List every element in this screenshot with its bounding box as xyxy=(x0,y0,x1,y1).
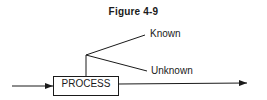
branch-known-line xyxy=(86,35,145,55)
process-label: PROCESS xyxy=(54,78,118,89)
diagram-lines xyxy=(0,0,267,100)
branch-unknown-line xyxy=(86,55,147,71)
branch-known-label: Known xyxy=(150,28,181,39)
output-arrow xyxy=(118,83,247,84)
branch-unknown-label: Unknown xyxy=(151,65,193,76)
